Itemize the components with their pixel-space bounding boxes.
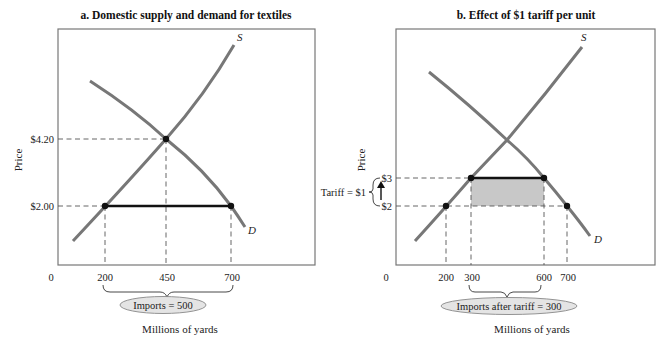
y-tick-2-00: $2.00	[30, 201, 54, 212]
tariff-revenue-area	[471, 178, 544, 206]
demand-curve-b	[429, 72, 590, 236]
x-axis-label-a: Millions of yards	[142, 323, 218, 335]
supply-curve-b	[415, 47, 582, 241]
x-tick-300-b: 300	[464, 272, 480, 283]
domestic-demand-point-a	[228, 203, 234, 209]
panel-a-frame	[58, 29, 315, 265]
x-tick-700-a: 700	[224, 272, 240, 283]
equilibrium-point	[163, 136, 169, 142]
demand-label-b: D	[593, 233, 602, 245]
x-tick-0-b: 0	[383, 272, 388, 283]
tariff-label: Tariff = $1	[321, 187, 366, 198]
x-tick-0-a: 0	[48, 272, 53, 283]
panel-b-title: b. Effect of $1 tariff per unit	[457, 9, 596, 22]
x-tick-200-b: 200	[438, 272, 454, 283]
domestic-supply-point-b	[443, 203, 449, 209]
domestic-supply-point-tariff	[468, 175, 474, 181]
y-axis-label-b: Price	[355, 149, 367, 172]
panel-a-title: a. Domestic supply and demand for textil…	[81, 9, 292, 22]
demand-label-a: D	[247, 224, 256, 236]
y-axis-label-a: Price	[12, 149, 24, 172]
panel-b: b. Effect of $1 tariff per unit S D $3 $…	[321, 9, 655, 335]
y-tick-2: $2	[382, 201, 393, 212]
x-tick-450-a: 450	[159, 272, 175, 283]
panel-b-frame	[396, 29, 655, 265]
domestic-supply-point-a	[102, 203, 108, 209]
domestic-demand-point-b	[564, 203, 570, 209]
y-tick-3: $3	[382, 173, 393, 184]
x-tick-600-b: 600	[536, 272, 552, 283]
supply-label-b: S	[581, 31, 587, 43]
figure: a. Domestic supply and demand for textil…	[0, 0, 662, 343]
imports-label-b: Imports after tariff = 300	[457, 301, 562, 312]
tariff-brace	[369, 178, 380, 206]
imports-label-a: Imports = 500	[133, 300, 193, 311]
x-tick-700-b: 700	[560, 272, 576, 283]
supply-label-a: S	[237, 31, 243, 43]
x-axis-label-b: Millions of yards	[494, 323, 570, 335]
supply-curve-a	[73, 45, 234, 241]
panel-a: a. Domestic supply and demand for textil…	[12, 9, 315, 335]
y-tick-4-20: $4.20	[30, 134, 54, 145]
imports-brace-b	[469, 285, 541, 297]
x-tick-200-a: 200	[97, 272, 113, 283]
domestic-demand-point-tariff	[541, 175, 547, 181]
imports-brace-a	[103, 285, 233, 297]
